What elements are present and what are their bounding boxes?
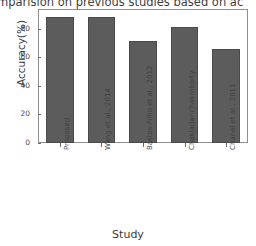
y-axis-tick-mark: [38, 143, 41, 144]
x-axis-tick-label: Wang et al., 2014: [104, 88, 112, 150]
x-axis-tick-mark: [143, 143, 144, 147]
x-axis-tick-mark: [60, 143, 61, 147]
y-axis-tick-mark: [38, 114, 41, 115]
x-axis-label: Study: [0, 228, 256, 241]
y-axis-tick-mark: [38, 57, 41, 58]
y-axis-tick-mark: [38, 86, 41, 87]
y-axis-tick-label: 0: [4, 139, 30, 147]
x-axis-tick-mark: [185, 143, 186, 147]
y-axis-label: Accuracy(%): [15, 3, 27, 103]
x-axis-tick-mark: [101, 143, 102, 147]
x-axis-tick-label: Proposed: [63, 118, 71, 150]
y-axis-tick-label: 20: [4, 110, 30, 118]
x-axis-tick-label: Bastos-Filho et al., 2012: [146, 66, 154, 150]
x-axis-tick-label: Chanel et al., 2011: [229, 83, 237, 150]
x-axis-tick-label: Chakladar-chakroborty: [188, 70, 196, 150]
x-axis-tick-mark: [226, 143, 227, 147]
bar-chart-figure: omparision on previous studies based on …: [0, 0, 256, 246]
y-axis-tick-mark: [38, 29, 41, 30]
